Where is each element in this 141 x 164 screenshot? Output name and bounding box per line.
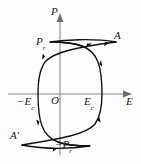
direction-arrow-upper-left [40, 53, 46, 60]
saturation-point-lower-label: A′ [10, 130, 19, 141]
remanent-polarization-symbol: P [36, 35, 43, 47]
negative-coercive-field-subscript: c [31, 104, 34, 112]
coercive-field-subscript: c [91, 104, 94, 112]
negative-remanent-polarization-subscript: r [69, 147, 72, 155]
negative-coercive-field-symbol: −E [17, 95, 31, 107]
direction-arrow-lower-left [36, 120, 40, 127]
negative-coercive-field-label: −Ec [17, 96, 34, 110]
coercive-field-symbol: E [84, 95, 91, 107]
coercive-field-label: Ec [84, 96, 94, 110]
inner-upper-tail [50, 42, 82, 46]
polarization-axis [57, 13, 64, 155]
ascending-branch-curve [22, 40, 116, 145]
hysteresis-figure: P E O Pr −Pr Ec −Ec A A′ [0, 0, 141, 164]
remanent-polarization-label: Pr [36, 36, 45, 50]
negative-remanent-polarization-symbol: −P [55, 138, 69, 150]
e-axis-label: E [126, 96, 133, 107]
p-axis-label: P [51, 6, 58, 17]
origin-label: O [51, 95, 59, 106]
negative-remanent-polarization-label: −Pr [55, 139, 72, 153]
saturation-point-upper-label: A [114, 30, 121, 41]
